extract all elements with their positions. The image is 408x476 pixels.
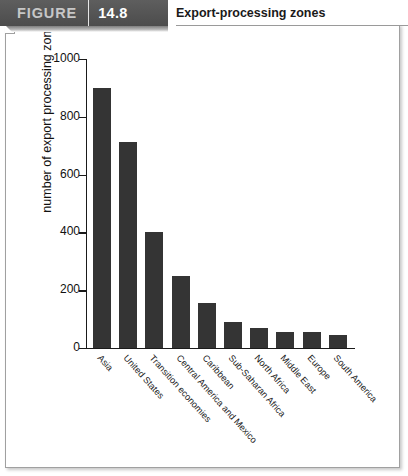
bar [250,328,268,348]
bar [198,303,216,348]
figure-word-label: FIGURE [0,0,77,26]
bar [276,332,294,348]
chart-plot-area: number of export processing zones 020040… [0,0,408,476]
figure-tab: FIGURE 14.8 [0,0,168,26]
header-rule [176,25,408,26]
bar [329,335,347,348]
bar-series [0,0,408,476]
figure-number-label: 14.8 [89,0,127,26]
bar [145,232,163,348]
figure-tab-divider [88,0,89,26]
bar [303,332,321,348]
bar [119,142,137,348]
bar [93,88,111,348]
figure-header: FIGURE 14.8 Export-processing zones [0,0,408,26]
bar [172,276,190,348]
figure-root: FIGURE 14.8 Export-processing zones numb… [0,0,408,476]
figure-title: Export-processing zones [176,0,325,26]
figure-tab-shadow [6,26,168,32]
bar [224,322,242,348]
